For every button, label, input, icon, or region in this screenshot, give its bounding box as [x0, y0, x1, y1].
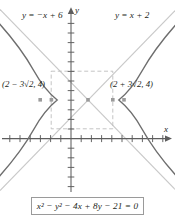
asymptote-right-label: y = x + 2 [115, 10, 149, 20]
vertex-right-point [111, 98, 115, 102]
hyperbola-graph [0, 0, 175, 219]
vertex-left-label: (2 − 3√2, 4) [2, 79, 45, 89]
asymptote-left-label: y = −x + 6 [22, 10, 63, 20]
equation-caption-box: x² − y² − 4x + 8y − 21 = 0 [31, 197, 144, 215]
fundamental-rectangle [51, 71, 113, 129]
hyperbola-right-branch [119, 19, 175, 181]
vertex-left-point [50, 98, 54, 102]
x-axis-label: x [164, 124, 168, 134]
equation-caption-text: x² − y² − 4x + 8y − 21 = 0 [37, 201, 138, 211]
center-point [86, 98, 90, 102]
y-axis-label: y [75, 5, 79, 15]
vertex-right-label: (2 + 3√2, 4) [110, 79, 153, 89]
hyperbola-left-branch [0, 19, 57, 181]
plotted-points [38, 98, 125, 102]
focus-right-point [122, 98, 126, 102]
y-axis-arrow-icon [68, 7, 74, 14]
x-axis-arrow-icon [165, 135, 172, 141]
focus-left-point [38, 98, 42, 102]
